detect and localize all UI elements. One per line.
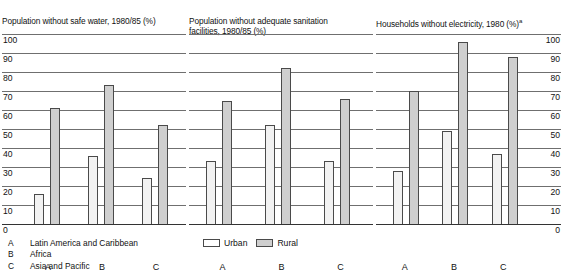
legend: UrbanRural bbox=[203, 238, 298, 248]
y-tick-label-100: 100 bbox=[3, 36, 17, 45]
category-key-name: Asia and Pacific bbox=[30, 261, 90, 272]
y-tick-label-100: 100 bbox=[546, 36, 560, 45]
panel-title-text: Population without adequate sanitation f… bbox=[189, 16, 328, 37]
bar-B-rural bbox=[458, 42, 468, 224]
footnote-marker: a bbox=[519, 18, 522, 24]
bar-A-urban bbox=[393, 171, 403, 224]
category-key-letter: A bbox=[8, 238, 30, 249]
y-tick-label-20: 20 bbox=[550, 188, 560, 197]
bar-B-urban bbox=[442, 131, 452, 224]
bar-A-rural bbox=[409, 91, 419, 224]
bar-B-rural bbox=[281, 68, 291, 224]
y-tick-label-10: 10 bbox=[550, 207, 560, 216]
bar-group-B bbox=[252, 34, 311, 224]
bar-C-urban bbox=[324, 161, 334, 224]
y-tick-label-10: 10 bbox=[3, 207, 13, 216]
bar-group-C bbox=[479, 34, 528, 224]
panel-sanitation: Population without adequate sanitation f… bbox=[189, 0, 373, 232]
category-key-B: BAfrica bbox=[8, 249, 138, 260]
category-key-list: ALatin America and CaribbeanBAfricaCAsia… bbox=[8, 238, 138, 272]
y-tick-label-30: 30 bbox=[3, 169, 13, 178]
y-tick-label-80: 80 bbox=[550, 74, 560, 83]
y-tick-label-70: 70 bbox=[550, 93, 560, 102]
y-tick-label-40: 40 bbox=[550, 150, 560, 159]
panel-safe-water: Population without safe water, 1980/85 (… bbox=[2, 0, 186, 232]
gridline-0 bbox=[189, 224, 373, 225]
plot-area: ABC bbox=[189, 34, 373, 224]
bar-B-urban bbox=[88, 156, 98, 224]
bar-groups: ABC bbox=[193, 34, 370, 224]
y-tick-label-60: 60 bbox=[3, 112, 13, 121]
y-tick-label-90: 90 bbox=[3, 55, 13, 64]
panel-title: Population without safe water, 1980/85 (… bbox=[2, 5, 186, 26]
bar-group-A bbox=[193, 34, 252, 224]
bar-B-rural bbox=[104, 85, 114, 224]
legend-item-rural: Rural bbox=[256, 238, 298, 248]
plot-area: 1009080706050403020100 ABC bbox=[376, 34, 561, 224]
y-tick-label-50: 50 bbox=[550, 131, 560, 140]
legend-label: Urban bbox=[224, 238, 247, 248]
y-tick-label-40: 40 bbox=[3, 150, 13, 159]
bar-A-rural bbox=[50, 108, 60, 224]
panel-title-text: Population without safe water, 1980/85 (… bbox=[2, 16, 156, 26]
legend-label: Rural bbox=[277, 238, 298, 248]
bar-C-urban bbox=[492, 154, 502, 224]
category-key-C: CAsia and Pacific bbox=[8, 261, 138, 272]
category-key-A: ALatin America and Caribbean bbox=[8, 238, 138, 249]
bar-group-B bbox=[75, 34, 129, 224]
bar-group-A bbox=[21, 34, 75, 224]
bar-A-urban bbox=[206, 161, 216, 224]
y-tick-label-0: 0 bbox=[3, 226, 8, 235]
legend-item-urban: Urban bbox=[203, 238, 247, 248]
legend-swatch-rural bbox=[256, 239, 273, 247]
panel-title: Population without adequate sanitation f… bbox=[189, 5, 373, 37]
category-key-letter: B bbox=[8, 249, 30, 260]
figure-footer: ALatin America and CaribbeanBAfricaCAsia… bbox=[0, 236, 563, 273]
bar-A-urban bbox=[34, 194, 44, 224]
bar-C-urban bbox=[142, 178, 152, 224]
bar-B-urban bbox=[265, 125, 275, 224]
bar-C-rural bbox=[340, 99, 350, 224]
y-tick-label-20: 20 bbox=[3, 188, 13, 197]
gridline-0 bbox=[376, 224, 561, 225]
plot-area: 1009080706050403020100 ABC bbox=[2, 34, 186, 224]
panel-electricity: Households without electricity, 1980 (%)… bbox=[376, 0, 561, 232]
y-tick-label-50: 50 bbox=[3, 131, 13, 140]
legend-swatch-urban bbox=[203, 239, 220, 247]
y-tick-label-60: 60 bbox=[550, 112, 560, 121]
y-tick-label-0: 0 bbox=[555, 226, 560, 235]
bar-groups: ABC bbox=[380, 34, 528, 224]
gridline-0 bbox=[2, 224, 186, 225]
category-key-name: Latin America and Caribbean bbox=[30, 238, 138, 249]
figure-chart-panels: Population without safe water, 1980/85 (… bbox=[0, 0, 563, 273]
bar-groups: ABC bbox=[21, 34, 183, 224]
panel-title: Households without electricity, 1980 (%)… bbox=[376, 5, 561, 29]
bar-C-rural bbox=[158, 125, 168, 224]
bar-group-A bbox=[380, 34, 429, 224]
y-tick-label-80: 80 bbox=[3, 74, 13, 83]
panel-title-text: Households without electricity, 1980 (%) bbox=[376, 18, 519, 28]
bar-C-rural bbox=[508, 57, 518, 224]
bar-A-rural bbox=[222, 101, 232, 225]
bar-group-C bbox=[129, 34, 183, 224]
y-tick-label-90: 90 bbox=[550, 55, 560, 64]
y-tick-label-30: 30 bbox=[550, 169, 560, 178]
bar-group-C bbox=[311, 34, 370, 224]
y-tick-label-70: 70 bbox=[3, 93, 13, 102]
category-key-letter: C bbox=[8, 261, 30, 272]
bar-group-B bbox=[429, 34, 478, 224]
panel-row: Population without safe water, 1980/85 (… bbox=[0, 0, 563, 232]
category-key-name: Africa bbox=[30, 249, 51, 260]
